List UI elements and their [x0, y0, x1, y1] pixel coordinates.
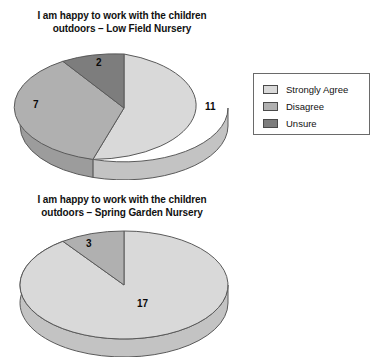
- legend-swatch-disagree-icon: [263, 102, 278, 111]
- pie-1-label-unsure: 2: [96, 57, 102, 68]
- legend-chart-1: Strongly Agree Disagree Unsure: [253, 73, 370, 135]
- pie-chart-2: [0, 180, 386, 357]
- legend-item-disagree[interactable]: Disagree: [263, 98, 360, 115]
- legend-swatch-unsure-icon: [263, 119, 278, 128]
- legend-item-unsure[interactable]: Unsure: [263, 115, 360, 132]
- legend-label-strongly-agree: Strongly Agree: [286, 85, 348, 95]
- pie-1-label-disagree: 7: [33, 99, 39, 110]
- pie-chart-2-svg: [0, 180, 386, 357]
- legend-label-unsure: Unsure: [286, 119, 317, 129]
- pie-2-label-unsure: 3: [86, 238, 92, 249]
- legend-item-strongly-agree[interactable]: Strongly Agree: [263, 81, 360, 98]
- pie-1-label-strongly-agree: 11: [205, 101, 216, 112]
- chart-spring-garden-nursery: I am happy to work with the children out…: [0, 180, 386, 357]
- chart-low-field-nursery: I am happy to work with the children out…: [0, 0, 386, 180]
- legend-swatch-strongly-agree-icon: [263, 85, 278, 94]
- pie-2-label-strongly-agree: 17: [137, 298, 148, 309]
- legend-label-disagree: Disagree: [286, 102, 324, 112]
